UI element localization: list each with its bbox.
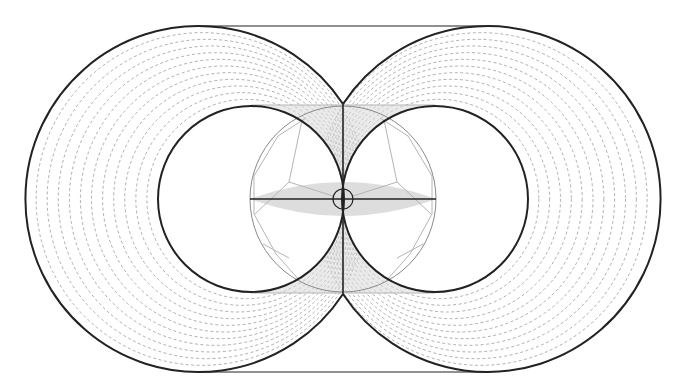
main-outlines <box>25 26 660 372</box>
geometric-diagram <box>0 0 680 391</box>
diagram-canvas <box>0 0 680 391</box>
